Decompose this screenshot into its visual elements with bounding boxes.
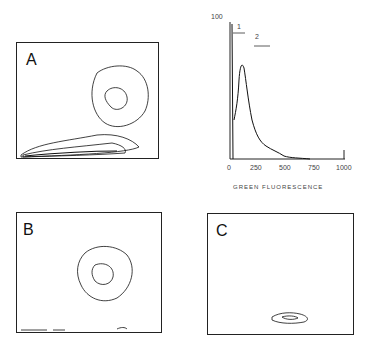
histogram: 100 1 2 0 250 500 750 1000 GREEN FLUORES…	[200, 0, 367, 200]
panel-b: B	[16, 212, 162, 333]
x-tick-750: 750	[308, 164, 320, 171]
panel-c: C	[207, 213, 354, 335]
x-axis-label: GREEN FLUORESCENCE	[233, 184, 323, 190]
gate-1-label: 1	[237, 23, 241, 30]
x-tick-500: 500	[279, 164, 291, 171]
x-tick-1000: 1000	[336, 164, 352, 171]
gate-2-label: 2	[255, 33, 259, 40]
contour-plot-a	[17, 43, 160, 160]
x-tick-250: 250	[250, 164, 262, 171]
panel-a: A	[16, 42, 159, 159]
contour-plot-b	[17, 213, 163, 334]
x-tick-0: 0	[227, 164, 231, 171]
contour-plot-c	[208, 214, 355, 336]
